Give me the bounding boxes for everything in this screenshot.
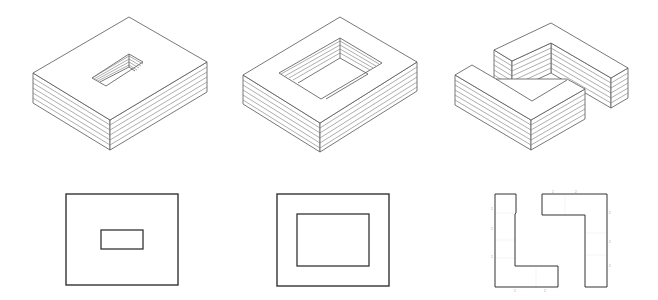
svg-text:2: 2 (544, 289, 546, 293)
plan-large-courtyard (277, 194, 389, 286)
svg-text:2: 2 (491, 227, 493, 231)
svg-text:2: 2 (609, 211, 611, 215)
diagram-canvas: 2 2 2 2 2 2 2 2 2 2 (0, 0, 658, 300)
faint-grid (495, 194, 607, 287)
svg-text:2: 2 (491, 255, 493, 259)
plan-outline (277, 194, 389, 286)
courtyard-outline (101, 230, 143, 249)
svg-text:2: 2 (609, 240, 611, 244)
svg-text:2: 2 (514, 289, 516, 293)
svg-text:2: 2 (609, 264, 611, 268)
plan-two-l-shapes: 2 2 2 2 2 2 2 2 2 2 (491, 190, 611, 293)
svg-text:2: 2 (552, 190, 554, 194)
svg-text:2: 2 (491, 207, 493, 211)
plan-small-courtyard (66, 194, 178, 285)
axonometric-two-l-shapes (455, 23, 628, 150)
right-l-outline (542, 194, 607, 287)
axonometric-small-courtyard (33, 17, 207, 150)
left-l-outline (495, 194, 558, 287)
dimension-marks: 2 2 2 2 2 2 2 2 2 2 (491, 190, 611, 293)
axonometric-large-courtyard (243, 17, 417, 152)
plan-outline (66, 194, 178, 285)
courtyard-outline (297, 214, 369, 266)
svg-text:2: 2 (575, 190, 577, 194)
massing-diagram: 2 2 2 2 2 2 2 2 2 2 (0, 0, 658, 300)
